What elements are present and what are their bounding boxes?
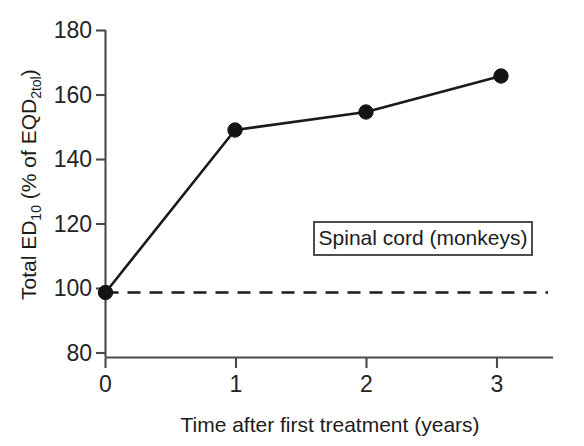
y-axis-title-main: Total ED: [17, 221, 40, 300]
line-chart-canvas: 180 160 140 120 100 80 0 1 2 3 Total ED1…: [0, 0, 584, 446]
data-line-spinal-cord: [106, 76, 502, 293]
y-axis-tickmarks: [96, 31, 106, 354]
x-tick-label-1: 1: [230, 371, 243, 397]
y-tick-label-180: 180: [54, 17, 92, 43]
y-tick-label-140: 140: [54, 146, 92, 172]
chart-figure: 180 160 140 120 100 80 0 1 2 3 Total ED1…: [0, 0, 584, 446]
x-axis-title: Time after first treatment (years): [180, 413, 479, 436]
y-tick-label-100: 100: [54, 275, 92, 301]
y-tick-label-160: 160: [54, 82, 92, 108]
y-axis-title-end: ): [17, 69, 40, 76]
y-tick-label-120: 120: [54, 211, 92, 237]
x-axis-tickmarks: [106, 358, 498, 369]
y-axis-title-sub-eqd: 2tol: [28, 76, 44, 99]
y-axis-title-mid: (% of EQD: [17, 99, 40, 205]
data-point-year-2: [359, 105, 373, 119]
annotation-label: Spinal cord (monkeys): [319, 226, 528, 249]
data-point-year-1: [228, 123, 242, 137]
data-point-year-0: [98, 285, 112, 299]
y-tick-label-80: 80: [66, 340, 92, 366]
x-tick-label-3: 3: [491, 371, 504, 397]
y-axis-title-sub-ed: 10: [28, 205, 44, 221]
svg-text:Total ED10 (% of EQD2tol): Total ED10 (% of EQD2tol): [17, 69, 44, 300]
data-point-year-3: [494, 69, 508, 83]
x-tick-label-0: 0: [99, 371, 112, 397]
y-axis-title: Total ED10 (% of EQD2tol): [17, 69, 44, 300]
x-tick-label-2: 2: [360, 371, 373, 397]
